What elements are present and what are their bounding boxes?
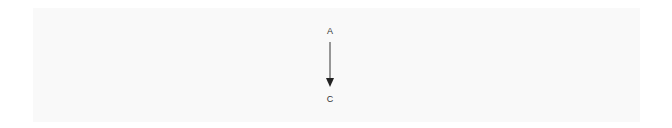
node-a-label: A (320, 26, 340, 36)
node-c-label: C (320, 94, 340, 104)
arrow-a-to-c (320, 40, 340, 90)
